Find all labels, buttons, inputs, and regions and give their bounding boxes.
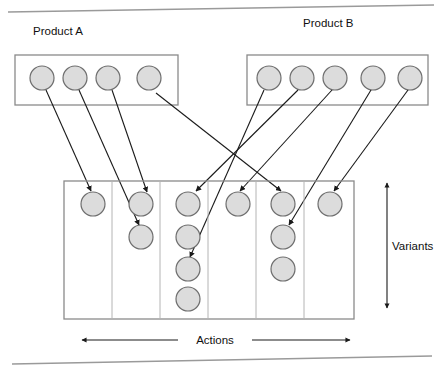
variants-dimension-arrow: Variants	[387, 183, 434, 308]
variant-node[interactable]	[129, 225, 153, 249]
actions-label: Actions	[196, 334, 234, 346]
top-rule	[8, 5, 434, 12]
diagram-canvas: Product A Product B	[0, 0, 442, 374]
product-a-node[interactable]	[96, 66, 120, 90]
product-b-node[interactable]	[257, 66, 281, 90]
variant-node[interactable]	[271, 192, 295, 216]
variants-actions-diagram: Product A Product B	[0, 0, 442, 374]
product-b-node[interactable]	[361, 66, 385, 90]
product-a-group: Product A	[15, 25, 178, 105]
variant-node[interactable]	[271, 257, 295, 281]
bottom-rule	[12, 356, 432, 364]
variant-node[interactable]	[226, 192, 250, 216]
product-b-node[interactable]	[290, 66, 314, 90]
variant-node[interactable]	[129, 192, 153, 216]
product-b-group: Product B	[247, 17, 428, 105]
actions-dimension-arrow: Actions	[82, 334, 350, 346]
variant-node[interactable]	[176, 287, 200, 311]
variants-grid	[64, 181, 354, 319]
variants-label: Variants	[392, 240, 434, 252]
product-b-node[interactable]	[398, 66, 422, 90]
product-a-node[interactable]	[137, 66, 161, 90]
mapping-arrow	[156, 93, 281, 191]
variant-node[interactable]	[176, 192, 200, 216]
grid-box	[64, 181, 354, 319]
product-a-label: Product A	[33, 25, 83, 37]
variant-node[interactable]	[271, 225, 295, 249]
mapping-arrow	[190, 90, 264, 257]
product-b-node[interactable]	[323, 66, 347, 90]
product-b-label: Product B	[303, 17, 354, 29]
variant-node[interactable]	[318, 192, 342, 216]
page-rules	[8, 5, 434, 364]
variant-node[interactable]	[81, 192, 105, 216]
product-a-node[interactable]	[63, 66, 87, 90]
variant-node[interactable]	[176, 257, 200, 281]
product-a-node[interactable]	[30, 66, 54, 90]
variant-node[interactable]	[176, 225, 200, 249]
